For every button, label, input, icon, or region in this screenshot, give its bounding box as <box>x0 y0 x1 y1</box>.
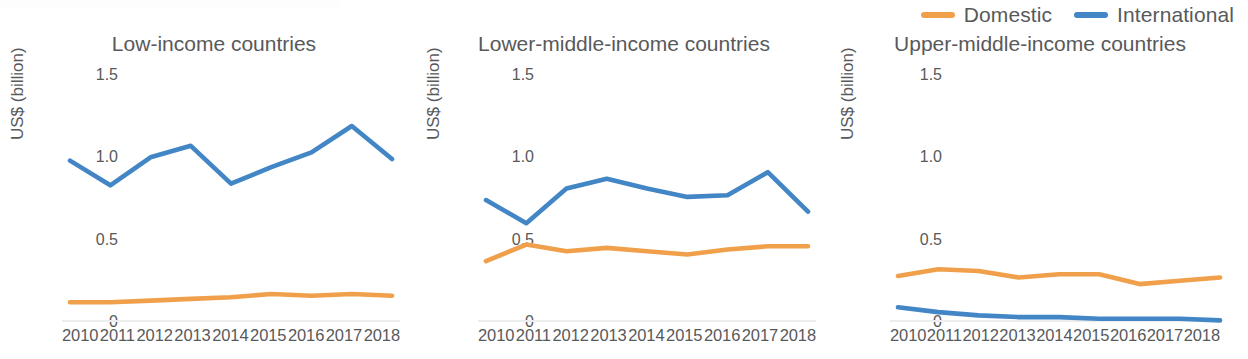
panel-title: Low-income countries <box>0 32 422 56</box>
chart-panels: Low-income countriesUS$ (billion)1.51.00… <box>0 0 1248 359</box>
series-canvas <box>62 75 400 322</box>
panel-title: Lower-middle-income countries <box>416 32 832 56</box>
x-tick-label: 2012 <box>963 326 999 352</box>
x-tick-label: 2010 <box>478 326 514 352</box>
x-tick-label: 2015 <box>250 326 286 352</box>
y-axis-label: US$ (billion) <box>8 47 28 140</box>
series-canvas <box>478 75 816 322</box>
x-tick-label: 2014 <box>628 326 664 352</box>
x-tick-label: 2011 <box>927 326 962 352</box>
x-axis-ticks: 201020112012201320142015201620172018 <box>890 326 1220 352</box>
x-axis-ticks: 201020112012201320142015201620172018 <box>62 326 400 352</box>
y-axis-label: US$ (billion) <box>424 47 444 140</box>
chart-panel-3: Upper-middle-income countriesUS$ (billio… <box>832 0 1248 359</box>
chart-panel-1: Low-income countriesUS$ (billion)1.51.00… <box>0 0 416 359</box>
x-tick-label: 2010 <box>62 326 98 352</box>
x-tick-label: 2016 <box>704 326 740 352</box>
series-line-international <box>70 126 392 185</box>
x-tick-label: 2010 <box>890 326 926 352</box>
x-tick-label: 2013 <box>999 326 1035 352</box>
x-tick-label: 2017 <box>326 326 362 352</box>
x-tick-label: 2017 <box>1147 326 1183 352</box>
series-line-domestic <box>486 245 808 262</box>
x-tick-label: 2013 <box>590 326 626 352</box>
series-line-domestic <box>898 269 1220 284</box>
x-tick-label: 2013 <box>174 326 210 352</box>
x-tick-label: 2015 <box>666 326 702 352</box>
x-tick-label: 2018 <box>1184 326 1220 352</box>
x-axis-ticks: 201020112012201320142015201620172018 <box>478 326 816 352</box>
x-tick-label: 2014 <box>1036 326 1072 352</box>
x-tick-label: 2018 <box>364 326 400 352</box>
series-line-domestic <box>70 294 392 302</box>
series-canvas <box>890 75 1228 322</box>
x-tick-label: 2014 <box>212 326 248 352</box>
x-tick-label: 2016 <box>1110 326 1146 352</box>
plot-area: 1.51.00.50201020112012201320142015201620… <box>62 75 400 322</box>
chart-panel-2: Lower-middle-income countriesUS$ (billio… <box>416 0 832 359</box>
series-line-international <box>898 307 1220 320</box>
x-tick-label: 2017 <box>742 326 778 352</box>
x-tick-label: 2012 <box>137 326 173 352</box>
series-line-international <box>486 172 808 223</box>
plot-area: 1.51.00.50201020112012201320142015201620… <box>478 75 816 322</box>
y-axis-label: US$ (billion) <box>838 47 858 140</box>
panel-title: Upper-middle-income countries <box>832 32 1248 56</box>
x-tick-label: 2011 <box>100 326 135 352</box>
plot-area: 1.51.00.50201020112012201320142015201620… <box>890 75 1220 322</box>
x-tick-label: 2011 <box>516 326 551 352</box>
x-tick-label: 2015 <box>1073 326 1109 352</box>
x-tick-label: 2018 <box>780 326 816 352</box>
x-tick-label: 2016 <box>288 326 324 352</box>
x-tick-label: 2012 <box>553 326 589 352</box>
